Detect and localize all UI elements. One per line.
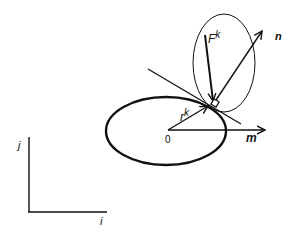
tangent-axis-label: m <box>246 131 257 145</box>
i-axis-label: i <box>100 215 103 227</box>
normal-label: n <box>275 30 282 42</box>
origin-label: 0 <box>165 134 171 145</box>
j-axis-label: j <box>16 139 21 151</box>
force-cone-ellipse <box>193 14 255 112</box>
force-label: Fk <box>208 29 221 46</box>
body-ellipse <box>106 97 226 165</box>
radius-label: rk <box>180 107 190 124</box>
contact-force-diagram: Fk n rk m 0 j i <box>0 0 294 237</box>
